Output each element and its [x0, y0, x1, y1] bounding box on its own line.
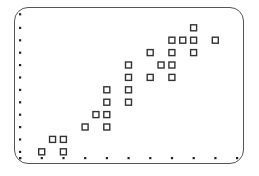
data-point-square-marker: [169, 50, 175, 56]
y-tick-mark: [19, 52, 21, 54]
data-point-square-marker: [104, 87, 110, 93]
data-point-square-marker: [158, 62, 164, 68]
data-point-square-marker: [147, 74, 153, 80]
y-tick-mark: [19, 76, 21, 78]
data-point-square-marker: [82, 124, 88, 130]
data-point-square-marker: [180, 37, 186, 43]
x-tick-mark: [171, 157, 173, 159]
scatter-plot: [0, 0, 259, 176]
y-tick-mark: [19, 13, 21, 15]
x-tick-mark: [128, 157, 130, 159]
x-tick-mark: [236, 157, 238, 159]
y-tick-mark: [19, 157, 21, 159]
data-point-square-marker: [147, 50, 153, 56]
data-point-square-marker: [191, 25, 197, 31]
y-tick-mark: [19, 126, 21, 128]
data-point-square-marker: [191, 50, 197, 56]
x-tick-mark: [41, 157, 43, 159]
data-point-square-marker: [93, 112, 99, 118]
data-point-square-marker: [169, 62, 175, 68]
x-tick-mark: [149, 157, 151, 159]
y-tick-mark: [19, 27, 21, 29]
data-point-square-marker: [60, 136, 66, 142]
data-point-square-marker: [104, 124, 110, 130]
y-tick-mark: [19, 89, 21, 91]
data-point-square-marker: [126, 74, 132, 80]
data-point-square-marker: [104, 112, 110, 118]
data-point-square-marker: [126, 99, 132, 105]
x-tick-mark: [62, 157, 64, 159]
x-tick-mark: [106, 157, 108, 159]
data-point-square-marker: [104, 99, 110, 105]
data-point-square-marker: [169, 37, 175, 43]
x-tick-mark: [214, 157, 216, 159]
y-tick-mark: [19, 64, 21, 66]
data-point-square-marker: [169, 74, 175, 80]
data-point-square-marker: [126, 62, 132, 68]
x-tick-mark: [84, 157, 86, 159]
data-point-square-marker: [191, 37, 197, 43]
y-tick-mark: [19, 101, 21, 103]
data-point-square-marker: [60, 149, 66, 155]
data-point-square-marker: [50, 136, 56, 142]
y-tick-mark: [19, 138, 21, 140]
data-point-square-marker: [126, 87, 132, 93]
data-point-square-marker: [212, 37, 218, 43]
x-tick-mark: [193, 157, 195, 159]
y-tick-mark: [19, 151, 21, 153]
y-tick-mark: [19, 114, 21, 116]
y-tick-mark: [19, 39, 21, 41]
data-point-square-marker: [39, 149, 45, 155]
